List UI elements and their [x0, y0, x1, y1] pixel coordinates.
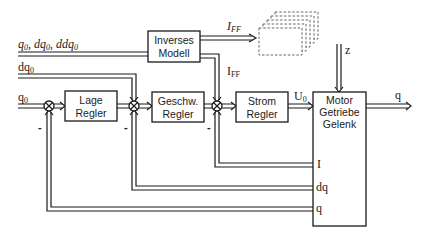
control-block-diagram: - - - Lage Regler Inverses Modell Geschw… — [0, 0, 428, 238]
svg-text:Motor: Motor — [326, 94, 353, 106]
stacked-joints-icon — [259, 12, 318, 55]
label-feedback-q: q — [316, 201, 322, 215]
svg-text:Strom: Strom — [248, 95, 276, 107]
svg-text:Geschw.: Geschw. — [158, 95, 198, 107]
label-q0: q0 — [18, 90, 28, 105]
svg-text:Getriebe: Getriebe — [319, 106, 359, 118]
block-strom-regler: Strom Regler — [236, 92, 288, 122]
summing-junction-2 — [129, 101, 139, 111]
block-lage-regler: Lage Regler — [65, 91, 117, 121]
label-dq0: dq0 — [18, 60, 34, 75]
svg-text:Lage: Lage — [79, 94, 103, 106]
label-u0: U0 — [294, 89, 307, 104]
label-feedback-dq: dq — [316, 180, 328, 194]
label-iff-top: IFF — [226, 19, 241, 34]
minus-sign-1: - — [38, 121, 42, 133]
label-iff-mid: IFF — [227, 64, 240, 79]
label-z: z — [345, 43, 350, 57]
summing-junction-3 — [212, 101, 222, 111]
block-geschw-regler: Geschw. Regler — [152, 92, 204, 122]
summing-junction-1 — [44, 101, 54, 111]
svg-text:Modell: Modell — [159, 47, 190, 59]
svg-text:Inverses: Inverses — [154, 34, 194, 46]
block-inverses-modell: Inverses Modell — [148, 31, 200, 62]
minus-sign-3: - — [207, 121, 211, 133]
svg-text:Regler: Regler — [163, 108, 194, 120]
label-feedback-i: I — [317, 157, 321, 171]
svg-text:Regler: Regler — [76, 107, 107, 119]
label-q-output: q — [395, 88, 401, 102]
label-feedforward-inputs: q0, dq0, ddq0 — [18, 37, 78, 52]
svg-text:Regler: Regler — [247, 108, 278, 120]
svg-text:Gelenk: Gelenk — [323, 118, 357, 130]
minus-sign-2: - — [124, 121, 128, 133]
